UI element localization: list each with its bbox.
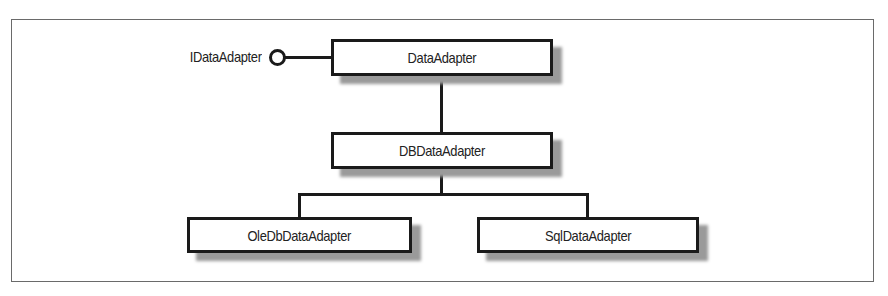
class-box-dataadapter: DataAdapter xyxy=(331,39,553,76)
class-name: SqlDataAdapter xyxy=(545,227,631,244)
class-box-sqldataadapter: SqlDataAdapter xyxy=(477,217,699,253)
inheritance-connector-trunk xyxy=(440,167,443,195)
class-box-oledbdataadapter: OleDbDataAdapter xyxy=(187,217,412,253)
class-name: DBDataAdapter xyxy=(399,142,485,159)
interface-connector xyxy=(285,56,333,59)
class-box-dbdataadapter: DBDataAdapter xyxy=(331,132,553,169)
interface-label: IDataAdapter xyxy=(190,48,262,65)
lollipop-interface-icon xyxy=(269,49,286,66)
inheritance-connector-root xyxy=(440,74,443,134)
inheritance-connector-right xyxy=(586,193,589,219)
inheritance-connector-left xyxy=(298,193,301,219)
class-name: OleDbDataAdapter xyxy=(248,227,351,244)
inheritance-connector-bar xyxy=(298,193,589,196)
class-name: DataAdapter xyxy=(408,49,477,66)
